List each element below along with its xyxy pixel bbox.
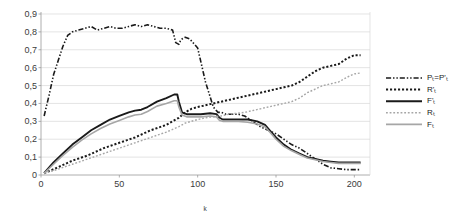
data-series-group bbox=[44, 25, 360, 173]
y-tick-label: 0,8 bbox=[24, 27, 37, 37]
legend-label-2: F'ₜ bbox=[427, 96, 435, 105]
line-chart: 00,10,20,30,40,50,60,70,80,9 05010015020… bbox=[0, 0, 474, 221]
x-tick-label: 50 bbox=[114, 179, 124, 189]
y-tick-label: 0,4 bbox=[24, 98, 37, 108]
y-tick-label: 0,6 bbox=[24, 63, 37, 73]
x-tick-label: 200 bbox=[347, 179, 362, 189]
x-tick-label: 100 bbox=[190, 179, 205, 189]
series-line-4 bbox=[44, 101, 360, 173]
legend-label-3: Rₜ bbox=[427, 108, 435, 117]
chart-container: 00,10,20,30,40,50,60,70,80,9 05010015020… bbox=[0, 0, 474, 221]
x-tick-label: 0 bbox=[38, 179, 43, 189]
x-axis-tick-labels: 050100150200 bbox=[38, 179, 361, 189]
y-tick-label: 0,1 bbox=[24, 152, 37, 162]
chart-legend: Pₜ=P'ₜR'ₜF'ₜRₜFₜ bbox=[386, 73, 448, 128]
gridlines bbox=[41, 14, 370, 157]
axes bbox=[39, 12, 371, 178]
y-tick-label: 0,5 bbox=[24, 81, 37, 91]
y-tick-label: 0,2 bbox=[24, 134, 37, 144]
x-tick-label: 150 bbox=[268, 179, 283, 189]
series-line-0 bbox=[44, 25, 360, 170]
x-axis-title: k bbox=[203, 205, 207, 212]
y-tick-label: 0,9 bbox=[24, 9, 37, 19]
legend-label-1: R'ₜ bbox=[427, 85, 436, 94]
y-axis-tick-labels: 00,10,20,30,40,50,60,70,80,9 bbox=[24, 9, 37, 180]
y-tick-label: 0 bbox=[32, 170, 37, 180]
legend-label-4: Fₜ bbox=[427, 120, 434, 129]
y-tick-label: 0,3 bbox=[24, 116, 37, 126]
y-tick-label: 0,7 bbox=[24, 45, 37, 55]
legend-label-0: Pₜ=P'ₜ bbox=[427, 73, 448, 82]
